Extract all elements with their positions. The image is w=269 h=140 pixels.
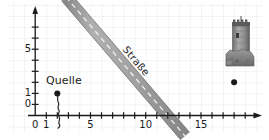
x-tick-label-1: 1 [43,120,49,130]
x-tick-label-5: 5 [87,120,93,130]
coordinate-figure: 0 1 5 0 1 5 10 15 Quelle Straße [0,0,269,140]
y-tick-label-0: 0 [20,99,31,109]
quelle-point [54,90,60,96]
x-tick-label-10: 10 [139,120,152,130]
axes-and-markers [0,0,269,140]
x-tick-label-0: 0 [32,120,38,130]
stream-wavy-line [57,93,60,128]
y-axis [32,6,39,116]
y-tick-label-1: 1 [20,88,31,98]
y-tick-label-5: 5 [20,44,31,54]
turm-point [231,79,237,85]
x-axis [28,112,262,119]
x-tick-label-15: 15 [195,120,208,130]
quelle-label: Quelle [46,74,82,87]
